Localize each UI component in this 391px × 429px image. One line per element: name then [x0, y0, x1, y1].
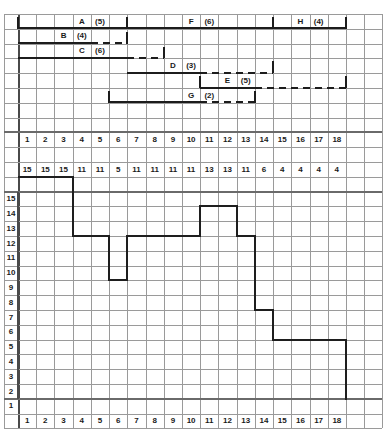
step-segment-horizontal [146, 235, 164, 237]
grid-hline [4, 191, 382, 193]
resource-row-cell: 11 [182, 163, 200, 178]
gantt-task-duration-c: (6) [91, 44, 109, 59]
gantt-task-duration-a: (5) [91, 15, 109, 30]
time-row-cell: 10 [182, 133, 200, 148]
grid-hline [4, 280, 382, 281]
time-row-cell: 6 [109, 133, 127, 148]
x-axis-label: 8 [146, 414, 164, 429]
gantt-task-label-e: E [218, 74, 236, 89]
step-segment-horizontal [182, 235, 200, 237]
y-axis-label: 15 [4, 192, 18, 207]
resource-row-cell: 11 [127, 163, 145, 178]
time-row-cell: 4 [73, 133, 91, 148]
grid-hline [4, 310, 382, 311]
gantt-end-tick-b [126, 32, 128, 44]
gantt-task-label-d: D [164, 59, 182, 74]
gantt-end-tick-g [254, 91, 256, 103]
time-row-cell: 5 [91, 133, 109, 148]
x-axis-label: 15 [273, 414, 291, 429]
step-segment-horizontal [273, 339, 291, 341]
grid-vline [382, 14, 383, 428]
time-row-cell: 13 [237, 133, 255, 148]
grid-hline [4, 295, 382, 296]
gantt-task-duration-d: (3) [182, 59, 200, 74]
x-axis-label: 18 [328, 414, 346, 429]
resource-row-cell: 5 [109, 163, 127, 178]
gantt-task-label-a: A [73, 15, 91, 30]
gantt-task-label-b: B [54, 29, 72, 44]
y-axis-label: 7 [4, 311, 18, 326]
y-axis-label: 2 [4, 385, 18, 400]
resource-row-cell: 6 [255, 163, 273, 178]
step-segment-horizontal [36, 176, 54, 178]
step-segment-closing [345, 339, 347, 400]
grid-hline [4, 206, 382, 207]
y-axis-label: 12 [4, 237, 18, 252]
gantt-task-label-h: H [291, 15, 309, 30]
y-axis-label: 1 [4, 399, 18, 414]
gantt-task-duration-g: (2) [200, 89, 218, 104]
gantt-task-label-c: C [73, 44, 91, 59]
x-axis-label: 2 [36, 414, 54, 429]
time-row-cell: 14 [255, 133, 273, 148]
gantt-end-tick-h [345, 17, 347, 29]
gantt-end-tick-c [163, 47, 165, 59]
step-segment-horizontal [328, 339, 346, 341]
y-axis-label: 8 [4, 296, 18, 311]
gantt-bar-float-e [255, 87, 346, 89]
step-segment-horizontal [109, 279, 127, 281]
grid-hline [4, 251, 382, 252]
resource-row-cell: 4 [291, 163, 309, 178]
step-segment-horizontal [164, 235, 182, 237]
step-segment-vertical [126, 235, 128, 281]
x-axis-label: 6 [109, 414, 127, 429]
step-segment-horizontal [291, 339, 309, 341]
resource-row-cell: 4 [273, 163, 291, 178]
step-segment-vertical [236, 205, 238, 237]
x-axis-label: 3 [54, 414, 72, 429]
time-row-cell: 1 [18, 133, 36, 148]
resource-row-cell: 4 [328, 163, 346, 178]
grid-hline [4, 354, 382, 355]
resource-row-cell: 11 [73, 163, 91, 178]
gantt-start-tick-h [272, 17, 274, 29]
time-row-cell: 12 [218, 133, 236, 148]
schedule-sheet: A(5)B(4)C(6)D(3)E(5)F(6)G(2)H(4)12345678… [0, 0, 391, 429]
step-segment-horizontal [18, 176, 36, 178]
time-row-cell: 3 [54, 133, 72, 148]
x-axis-label: 9 [164, 414, 182, 429]
gantt-task-duration-b: (4) [73, 29, 91, 44]
time-row-cell: 8 [146, 133, 164, 148]
time-row-cell: 16 [291, 133, 309, 148]
step-segment-horizontal [255, 309, 273, 311]
x-axis-label: 13 [237, 414, 255, 429]
y-axis-label: 9 [4, 281, 18, 296]
y-axis-label: 4 [4, 355, 18, 370]
resource-row-cell: 13 [200, 163, 218, 178]
gantt-end-tick-d [272, 61, 274, 73]
gantt-task-duration-h: (4) [310, 15, 328, 30]
resource-row-cell: 13 [218, 163, 236, 178]
step-segment-horizontal [218, 205, 236, 207]
step-segment-horizontal [127, 235, 145, 237]
x-axis-label: 11 [200, 414, 218, 429]
y-axis-label: 11 [4, 251, 18, 266]
grid-hline [4, 118, 382, 119]
step-segment-vertical [272, 309, 274, 341]
grid-hline [4, 384, 382, 385]
y-axis-label: 10 [4, 266, 18, 281]
gantt-start-tick-g [108, 91, 110, 103]
x-axis-label: 14 [255, 414, 273, 429]
grid-hline [4, 369, 382, 370]
step-segment-horizontal [310, 339, 328, 341]
gantt-task-label-f: F [182, 15, 200, 30]
gantt-start-tick-a [17, 17, 19, 29]
step-segment-vertical [254, 235, 256, 311]
gantt-task-duration-e: (5) [237, 74, 255, 89]
resource-row-cell: 11 [91, 163, 109, 178]
step-segment-vertical [199, 205, 201, 237]
time-row-cell: 15 [273, 133, 291, 148]
step-segment-vertical [108, 235, 110, 281]
gantt-bar-float-c [127, 57, 163, 59]
time-row-cell: 2 [36, 133, 54, 148]
